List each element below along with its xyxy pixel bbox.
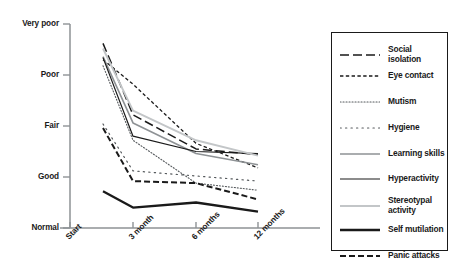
legend-label-5: Hyperactivity xyxy=(388,174,439,184)
legend-swatch-6 xyxy=(340,201,380,211)
series-group xyxy=(103,43,258,211)
legend-label-8: Panic attacks xyxy=(388,251,440,261)
y-tick-label-1: Poor xyxy=(2,70,59,79)
legend-swatch-3 xyxy=(340,123,380,133)
legend-item-3[interactable]: Hygiene xyxy=(340,123,420,133)
legend-label-6: Stereotypal activity xyxy=(388,196,432,215)
legend-item-4[interactable]: Learning skills xyxy=(340,149,444,159)
legend-swatch-2 xyxy=(340,97,380,107)
legend-label-7: Self mutilation xyxy=(388,225,443,235)
legend-label-0: Social isolation xyxy=(388,45,447,64)
series-line-6 xyxy=(103,48,258,155)
legend-item-2[interactable]: Mutism xyxy=(340,97,416,107)
legend-item-7[interactable]: Self mutilation xyxy=(340,225,443,235)
legend-label-2: Mutism xyxy=(388,97,416,107)
legend-label-4: Learning skills xyxy=(388,149,444,159)
legend-swatch-0 xyxy=(340,50,380,60)
legend-box: Social isolationEye contactMutismHygiene… xyxy=(331,32,448,251)
legend-swatch-8 xyxy=(340,251,380,261)
y-tick-label-0: Very poor xyxy=(2,19,59,28)
chart-root: Very poorPoorFairGoodNormal Start3 month… xyxy=(0,0,460,275)
legend-item-8[interactable]: Panic attacks xyxy=(340,251,440,261)
legend-swatch-7 xyxy=(340,225,380,235)
series-line-5 xyxy=(103,58,258,154)
legend-item-1[interactable]: Eye contact xyxy=(340,71,433,81)
legend-swatch-5 xyxy=(340,174,380,184)
series-line-1 xyxy=(103,60,258,168)
series-line-2 xyxy=(103,66,258,190)
legend-label-1: Eye contact xyxy=(388,71,433,81)
series-line-8 xyxy=(103,128,258,199)
legend-swatch-1 xyxy=(340,71,380,81)
series-line-4 xyxy=(103,57,258,165)
axis-group xyxy=(60,24,320,228)
legend-item-6[interactable]: Stereotypal activity xyxy=(340,196,432,215)
legend-item-0[interactable]: Social isolation xyxy=(340,45,447,64)
legend-item-5[interactable]: Hyperactivity xyxy=(340,174,439,184)
y-tick-label-2: Fair xyxy=(2,121,59,130)
y-tick-label-3: Good xyxy=(2,172,59,181)
series-line-0 xyxy=(103,43,258,154)
y-tick-label-4: Normal xyxy=(2,223,59,232)
legend-swatch-4 xyxy=(340,149,380,159)
legend-label-3: Hygiene xyxy=(388,123,420,133)
